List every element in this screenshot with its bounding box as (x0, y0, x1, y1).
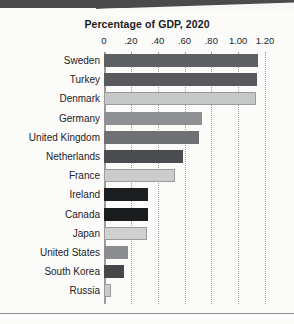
bar (104, 284, 111, 297)
bar-row: South Korea (104, 265, 265, 278)
bar (104, 227, 147, 240)
x-tick-label: .20 (124, 35, 137, 46)
category-label: Germany (0, 112, 100, 125)
bar-row: Ireland (104, 188, 265, 201)
page-bottom-rule (0, 313, 294, 314)
category-label: Turkey (0, 73, 100, 86)
x-tick-label: 1.00 (229, 35, 248, 46)
category-label: Sweden (0, 54, 100, 67)
gridline (265, 52, 266, 304)
bar-row: Turkey (104, 73, 265, 86)
bar-row: Denmark (104, 92, 265, 105)
bar (104, 265, 124, 278)
category-label: South Korea (0, 265, 100, 278)
bar-row: France (104, 169, 265, 182)
category-label: Netherlands (0, 150, 100, 163)
bar (104, 150, 183, 163)
bar-row: Sweden (104, 54, 265, 67)
bar (104, 112, 202, 125)
bar (104, 246, 128, 259)
x-axis-tick-labels: 0.20.40.60.801.001.20 (0, 35, 294, 49)
bar-row: Russia (104, 284, 265, 297)
bar-chart: Percentage of GDP, 2020 0.20.40.60.801.0… (0, 9, 294, 313)
plot-area: SwedenTurkeyDenmarkGermanyUnited Kingdom… (104, 52, 265, 304)
category-label: United Kingdom (0, 131, 100, 144)
bar-row: Canada (104, 208, 265, 221)
bar-row: Netherlands (104, 150, 265, 163)
category-label: Russia (0, 284, 100, 297)
bar (104, 131, 199, 144)
scanned-page: Percentage of GDP, 2020 0.20.40.60.801.0… (0, 0, 294, 324)
bar (104, 169, 175, 182)
bar (104, 92, 256, 105)
bar (104, 208, 148, 221)
bar-row: United Kingdom (104, 131, 265, 144)
x-tick-label: .80 (205, 35, 218, 46)
x-tick-label: 0 (101, 35, 106, 46)
bar-row: Germany (104, 112, 265, 125)
category-label: Canada (0, 208, 100, 221)
x-tick-label: 1.20 (256, 35, 275, 46)
chart-title: Percentage of GDP, 2020 (0, 18, 294, 30)
bar-row: Japan (104, 227, 265, 240)
bar (104, 188, 148, 201)
x-tick-label: .60 (178, 35, 191, 46)
bar (104, 54, 258, 67)
category-label: Japan (0, 227, 100, 240)
category-label: Denmark (0, 92, 100, 105)
category-label: United States (0, 246, 100, 259)
bar (104, 73, 257, 86)
x-tick-label: .40 (151, 35, 164, 46)
bar-row: United States (104, 246, 265, 259)
category-label: Ireland (0, 188, 100, 201)
category-label: France (0, 169, 100, 182)
